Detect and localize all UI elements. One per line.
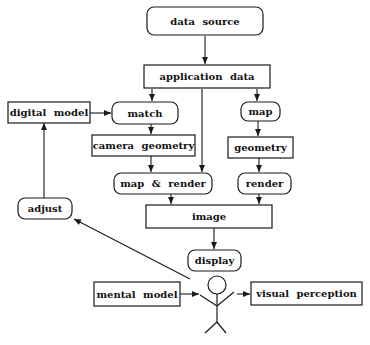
node-map-render: map & render	[114, 173, 212, 194]
node-label: map	[248, 106, 272, 117]
node-adjust: adjust	[18, 198, 72, 219]
node-label: adjust	[28, 203, 63, 214]
node-geometry: geometry	[228, 137, 293, 158]
diagram-canvas: data source application data digital mod…	[0, 0, 370, 345]
node-label: image	[192, 211, 226, 222]
node-label: match	[127, 108, 163, 119]
node-label: mental model	[97, 289, 178, 300]
node-visual-perception: visual perception	[251, 282, 362, 305]
node-digital-model: digital model	[8, 102, 90, 123]
node-label: render	[246, 178, 284, 189]
node-label: geometry	[234, 142, 288, 153]
node-map: map	[241, 102, 280, 121]
node-render: render	[238, 173, 291, 194]
node-label: application data	[159, 71, 255, 82]
node-label: camera geometry	[93, 140, 196, 151]
node-label: visual perception	[255, 288, 357, 299]
node-mental-model: mental model	[94, 282, 180, 306]
node-label: display	[195, 255, 236, 266]
node-camera-geometry: camera geometry	[92, 135, 195, 156]
node-application-data: application data	[144, 65, 270, 88]
node-label: digital model	[10, 107, 89, 118]
node-match: match	[112, 102, 178, 124]
node-label: map & render	[120, 178, 206, 189]
node-image: image	[146, 205, 272, 228]
node-display: display	[188, 250, 241, 271]
node-data-source: data source	[147, 7, 263, 35]
node-label: data source	[170, 16, 239, 27]
user-stick-figure-icon	[200, 276, 234, 333]
